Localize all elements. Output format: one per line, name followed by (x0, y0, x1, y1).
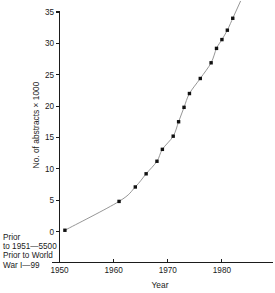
data-point-marker (117, 200, 120, 203)
data-point-marker (182, 106, 185, 109)
data-point-marker (134, 185, 137, 188)
y-tick-label: 25 (45, 71, 55, 80)
chart-axes (52, 11, 273, 263)
abstracts-growth-line-chart: 05101520253035 1950196019701980 No. of a… (0, 0, 275, 293)
data-point-marker (155, 160, 158, 163)
data-point-marker (172, 134, 175, 137)
x-tick-label: 1960 (105, 266, 124, 275)
data-point-marker (188, 92, 191, 95)
chart-figure: 05101520253035 1950196019701980 No. of a… (0, 0, 275, 293)
annotation-block: Priorto 1951—5500Prior to WorldWar I—99 (3, 233, 57, 270)
y-tick-label: 15 (45, 133, 55, 142)
x-axis-label: Year (152, 280, 169, 290)
y-axis-label: No. of abstracts × 1000 (31, 81, 41, 168)
data-series-curve (65, 1, 241, 230)
data-point-marker (231, 17, 234, 20)
data-point-marker (209, 61, 212, 64)
y-tick-label: 30 (45, 39, 55, 48)
y-tick-label: 10 (45, 165, 55, 174)
x-tick-label: 1980 (213, 266, 232, 275)
x-tick-label: 1970 (159, 266, 178, 275)
data-point-marker (161, 148, 164, 151)
data-point-marker (144, 172, 147, 175)
data-point-marker (220, 38, 223, 41)
y-tick-label: 35 (45, 8, 55, 17)
y-tick-label: 20 (45, 102, 55, 111)
annotation-line: Prior (3, 233, 21, 242)
annotation-line: to 1951—5500 (3, 242, 57, 251)
data-point-marker (226, 28, 229, 31)
y-tick-label: 0 (49, 228, 54, 237)
data-point-markers (63, 17, 234, 232)
data-point-marker (199, 77, 202, 80)
data-point-marker (63, 229, 66, 232)
y-tick-label: 5 (49, 196, 54, 205)
x-axis-ticks: 1950196019701980 (50, 259, 231, 275)
y-axis-ticks: 05101520253035 (45, 8, 60, 237)
data-point-marker (215, 47, 218, 50)
annotation-line: War I—99 (3, 261, 40, 270)
x-tick-label: 1950 (50, 266, 69, 275)
data-point-marker (177, 120, 180, 123)
annotation-line: Prior to World (3, 251, 53, 260)
